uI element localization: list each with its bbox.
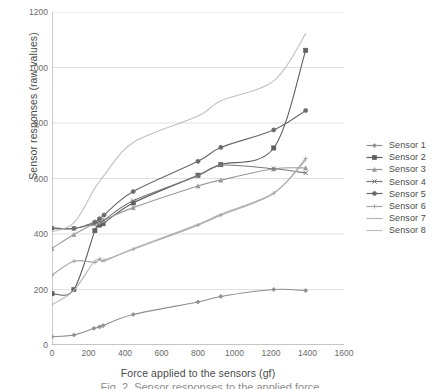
chart-canvas [52,12,344,345]
legend-label: Sensor 3 [389,164,426,174]
data-point [52,292,54,296]
y-tick-label: 1200 [18,8,48,17]
data-point [196,159,200,163]
legend-marker [372,204,376,208]
x-tick-label: 800 [178,349,218,358]
legend-marker-icon [366,225,383,236]
legend-label: Sensor 1 [389,140,426,150]
data-point [52,226,54,230]
legend-marker-icon [366,152,383,163]
data-point [131,312,135,316]
y-tick-label: 200 [18,286,48,295]
legend-marker-icon [366,140,383,151]
x-tick-label: 1200 [251,349,291,358]
legend-marker-icon [366,201,383,212]
x-axis-tick-labels: 02004006008001000120014001600 [0,349,444,363]
data-point [131,189,135,193]
y-tick-label: 800 [18,119,48,128]
x-axis-title: Force applied to the sensors (gf) [48,367,348,379]
data-point [92,326,96,330]
data-point [72,226,76,230]
series-line [52,159,306,276]
chart-legend: Sensor 1Sensor 2Sensor 3Sensor 4Sensor 5… [366,139,444,237]
legend-marker [372,155,376,159]
data-point [272,146,276,150]
x-tick-label: 400 [105,349,145,358]
data-point [219,145,223,149]
data-point [93,220,97,224]
legend-label: Sensor 6 [389,201,426,211]
data-point [304,48,308,52]
x-tick-label: 1600 [324,349,364,358]
legend-item-2[interactable]: Sensor 2 [366,151,444,163]
figure-caption: Fig. 2. Sensor responses to the applied … [60,381,360,389]
legend-marker-icon [366,213,383,224]
y-axis-tick-labels: 020040060080010001200 [14,0,48,389]
x-tick-label: 600 [142,349,182,358]
y-tick-label: 600 [18,175,48,184]
figure: Sensor responses (raw values) 0200400600… [0,0,444,389]
legend-label: Sensor 8 [389,225,426,235]
legend-item-4[interactable]: Sensor 4 [366,176,444,188]
legend-label: Sensor 7 [389,213,426,223]
legend-marker-icon [366,176,383,187]
series-1 [52,287,308,338]
x-tick-label: 1400 [288,349,328,358]
series-2 [52,48,308,296]
data-point [52,335,54,339]
data-point [272,128,276,132]
legend-item-3[interactable]: Sensor 3 [366,163,444,175]
data-point [304,108,308,112]
data-point [196,300,200,304]
legend-label: Sensor 2 [389,152,426,162]
legend-label: Sensor 5 [389,189,426,199]
data-point [219,294,223,298]
x-tick-label: 0 [32,349,72,358]
series-line [52,168,306,249]
series-line [52,50,306,295]
data-point [272,287,276,291]
legend-item-7[interactable]: Sensor 7 [366,212,444,224]
series-6 [52,156,308,277]
series-line [52,289,306,336]
legend-item-8[interactable]: Sensor 8 [366,224,444,236]
legend-item-6[interactable]: Sensor 6 [366,200,444,212]
x-tick-label: 1000 [215,349,255,358]
data-point [97,217,101,221]
x-tick-label: 200 [69,349,109,358]
legend-marker-icon [366,164,383,175]
legend-item-1[interactable]: Sensor 1 [366,139,444,151]
legend-marker [372,192,376,196]
legend-label: Sensor 4 [389,177,426,187]
plot-area [52,12,344,345]
legend-marker-icon [366,188,383,199]
data-point [93,229,97,233]
y-tick-label: 400 [18,230,48,239]
data-point [72,333,76,337]
legend-marker [372,143,376,147]
data-point [102,213,106,217]
legend-item-5[interactable]: Sensor 5 [366,188,444,200]
y-tick-label: 1000 [18,64,48,73]
data-point [72,259,76,263]
